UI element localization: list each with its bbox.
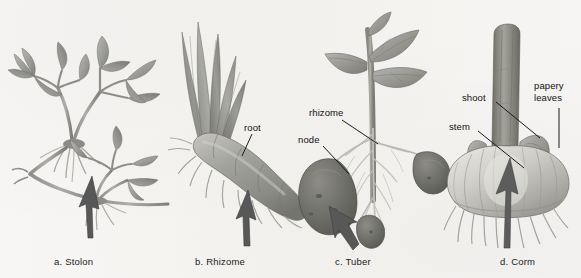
caption-tuber: c. Tuber — [335, 256, 371, 267]
papery-leaves-line1: papery — [534, 80, 564, 91]
label-rhizome: rhizome — [309, 107, 344, 119]
papery-leaves-line2: leaves — [534, 92, 562, 103]
caption-stolon: a. Stolon — [54, 256, 93, 267]
label-stem: stem — [449, 121, 470, 133]
caption-corm: d. Corm — [500, 256, 535, 267]
label-shoot: shoot — [462, 92, 486, 104]
node-leader-line — [321, 144, 361, 180]
tuber-leaves — [325, 12, 427, 88]
sword-leaves — [182, 22, 246, 140]
parent-plant — [8, 36, 160, 182]
root-leader-line — [238, 130, 278, 164]
panel-rhizome: root b. Rhizome — [160, 0, 300, 278]
botany-figure: a. Stolon — [0, 0, 581, 278]
stolon-arrow — [79, 176, 99, 238]
panel-stolon: a. Stolon — [0, 0, 175, 278]
papery-leaves-leader-line — [550, 106, 570, 152]
stolon-illustration — [0, 8, 175, 248]
leaflet-group-left — [8, 42, 89, 96]
rhizome-illustration — [160, 10, 310, 250]
label-node: node — [298, 134, 320, 146]
caption-rhizome: b. Rhizome — [195, 256, 245, 267]
tuber-small-bottom — [357, 215, 385, 248]
panel-corm: shoot stem papery leaves d. Corm — [438, 0, 581, 278]
panel-tuber: rhizome node c. Tuber — [295, 0, 455, 278]
label-papery-leaves: papery leaves — [534, 80, 564, 103]
stem-leader-line — [476, 128, 532, 174]
